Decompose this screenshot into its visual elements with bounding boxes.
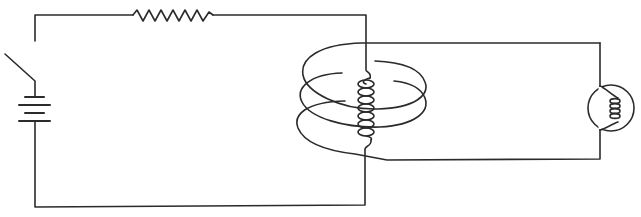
induction-circuit-diagram	[0, 0, 641, 217]
lamp-icon	[588, 85, 634, 131]
wire-top-right	[213, 15, 370, 78]
wire-bottom	[35, 121, 371, 207]
secondary-coil-icon	[297, 43, 600, 160]
battery-icon	[19, 97, 50, 121]
resistor-icon	[133, 10, 213, 21]
switch-icon	[5, 54, 35, 97]
lamp-gap	[599, 87, 602, 129]
wire-top-left	[35, 15, 133, 41]
primary-circuit	[5, 10, 374, 207]
secondary-circuit	[297, 43, 634, 160]
